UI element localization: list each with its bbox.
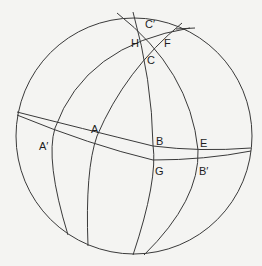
label-a-prime: A′ [39, 140, 48, 152]
sphere-outline [16, 18, 252, 254]
top-chord [176, 28, 195, 29]
meridian-e [117, 13, 198, 255]
sphere-diagram: C′ H F C A′ A B E G B′ [0, 0, 262, 266]
label-e: E [200, 137, 207, 149]
label-b: B [156, 135, 163, 147]
label-c-prime: C′ [145, 18, 155, 30]
label-h: H [131, 37, 139, 49]
label-a: A [91, 123, 99, 135]
label-c: C [147, 54, 155, 66]
label-b-prime: B′ [199, 165, 208, 177]
label-f: F [164, 37, 171, 49]
meridian-a [87, 23, 182, 246]
meridian-a-prime [52, 28, 190, 235]
label-g: G [155, 165, 164, 177]
